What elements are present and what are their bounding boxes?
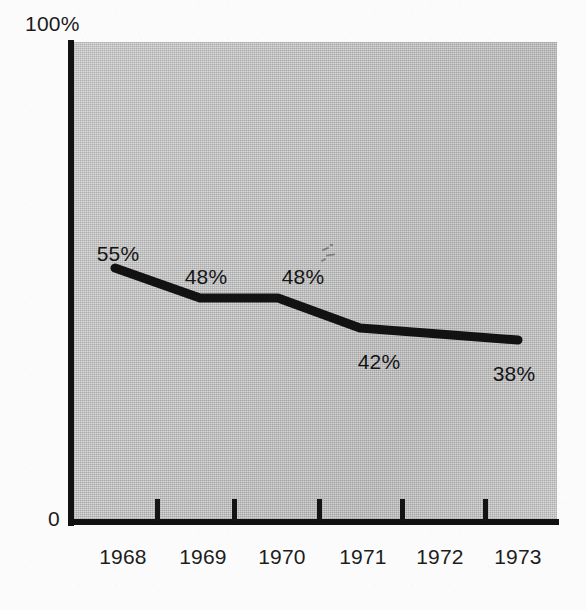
x-axis-label-1972: 1972	[405, 545, 475, 569]
x-axis-label-1969: 1969	[168, 545, 238, 569]
x-axis-label-1973: 1973	[483, 545, 553, 569]
data-label-1971: 42%	[347, 350, 411, 374]
data-label-1970: 48%	[271, 265, 335, 289]
x-axis-label-1971: 1971	[328, 545, 398, 569]
x-axis-label-1968: 1968	[88, 545, 158, 569]
x-axis-label-1970: 1970	[247, 545, 317, 569]
data-label-1969: 48%	[174, 265, 238, 289]
line-chart: 100% 0 196819691970197119721973 55%48%48…	[0, 0, 586, 610]
data-label-1973: 38%	[482, 362, 546, 386]
y-axis-max-label: 100%	[25, 12, 80, 36]
data-series-line	[0, 0, 586, 610]
y-axis-min-label: 0	[48, 507, 60, 531]
data-label-1968: 55%	[86, 242, 150, 266]
